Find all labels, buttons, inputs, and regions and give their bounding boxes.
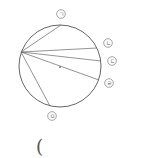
chord-giyeok: ㄱ	[21, 10, 65, 52]
chord-mieum: ㅁ	[21, 52, 56, 120]
label-nieun: ㄴ	[106, 40, 111, 46]
chord-nieun: ㄴ	[21, 39, 112, 52]
label-digeut: ㄷ	[110, 58, 115, 64]
circle-chord-diagram: ㄱ ㄴ ㄷ ㄹ ㅁ	[0, 0, 148, 158]
label-rieul: ㄹ	[107, 80, 112, 86]
label-mieum: ㅁ	[50, 113, 55, 119]
chord-digeut: ㄷ	[21, 52, 116, 65]
answer-blank-paren: (	[36, 138, 43, 156]
label-giyeok: ㄱ	[59, 11, 64, 17]
